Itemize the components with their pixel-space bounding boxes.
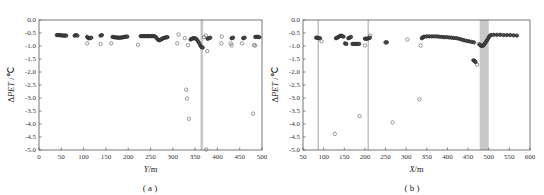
y-tick-label: -2.0	[289, 68, 301, 76]
data-point	[183, 37, 186, 40]
y-tick-label: -2.5	[25, 81, 37, 89]
data-point	[358, 115, 361, 118]
chart-canvas: 0.0-0.5-1.0-1.5-2.0-2.5-3.0-3.5-4.0-4.5-…	[0, 0, 544, 195]
data-point	[166, 35, 169, 38]
x-axis-label: Y/m	[144, 164, 158, 174]
data-point	[205, 50, 208, 53]
data-point	[495, 33, 498, 36]
data-point	[186, 44, 189, 47]
y-tick-label: -2.0	[25, 68, 37, 76]
y-tick-label: -0.5	[25, 29, 37, 37]
y-tick-label: -3.5	[25, 107, 37, 115]
x-tick-label: 400	[212, 153, 223, 161]
x-tick-label: 100	[78, 153, 89, 161]
data-point	[231, 36, 234, 39]
data-point	[230, 44, 233, 47]
x-tick-label: 500	[483, 153, 494, 161]
x-tick-label: 250	[145, 153, 156, 161]
data-point	[406, 38, 409, 41]
data-point	[472, 41, 475, 44]
data-point	[349, 35, 352, 38]
x-tick-label: 500	[257, 153, 268, 161]
highlight-band	[200, 20, 203, 150]
y-tick-label: -3.5	[289, 107, 301, 115]
data-point	[320, 40, 323, 43]
data-point	[184, 88, 187, 91]
data-point	[515, 34, 518, 37]
data-point	[176, 42, 179, 45]
data-point	[418, 98, 421, 101]
data-point	[357, 42, 360, 45]
y-tick-label: -1.0	[25, 42, 37, 50]
data-point	[110, 42, 113, 45]
x-tick-label: 450	[463, 153, 474, 161]
y-axis-label: ΔPET /℃	[270, 67, 280, 102]
y-tick-label: -3.0	[289, 94, 301, 102]
y-tick-label: -5.0	[25, 146, 37, 154]
data-point	[505, 33, 508, 36]
series-sparse-points	[320, 34, 481, 136]
data-point	[187, 117, 190, 120]
data-point	[220, 35, 223, 38]
x-tick-label: 550	[504, 153, 515, 161]
y-tick-label: -4.0	[25, 120, 37, 128]
x-tick-label: 300	[401, 153, 412, 161]
x-tick-label: 100	[318, 153, 329, 161]
y-tick-label: -0.5	[289, 29, 301, 37]
data-point	[475, 63, 478, 66]
chart-b: 0.0-0.5-1.0-1.5-2.0-2.5-3.0-3.5-4.0-4.5-…	[270, 16, 536, 193]
data-point	[345, 42, 348, 45]
y-tick-label: -2.5	[289, 81, 301, 89]
y-tick-label: 0.0	[27, 16, 36, 24]
x-tick-label: 450	[234, 153, 245, 161]
subfigure-caption: ( a )	[143, 183, 158, 193]
y-tick-label: -4.5	[25, 133, 37, 141]
y-tick-label: -3.0	[25, 94, 37, 102]
data-point	[342, 35, 345, 38]
data-point	[220, 42, 223, 45]
data-point	[177, 33, 180, 36]
data-point	[499, 33, 502, 36]
x-tick-label: 50	[58, 153, 66, 161]
data-point	[333, 132, 336, 135]
y-tick-label: -4.5	[289, 133, 301, 141]
data-point	[243, 36, 246, 39]
data-point	[363, 44, 366, 47]
y-tick-label: -1.5	[25, 55, 37, 63]
data-point	[512, 34, 515, 37]
x-tick-label: 150	[339, 153, 350, 161]
data-point	[508, 33, 511, 36]
x-tick-label: 200	[123, 153, 134, 161]
data-point	[229, 42, 232, 45]
data-point	[240, 42, 243, 45]
data-point	[99, 42, 102, 45]
data-point	[65, 34, 68, 37]
data-point	[205, 148, 208, 151]
y-tick-label: 0.0	[291, 16, 300, 24]
data-point	[85, 42, 88, 45]
x-tick-label: 50	[300, 153, 308, 161]
data-point	[100, 33, 103, 36]
y-axis-label: ΔPET /℃	[6, 67, 16, 102]
data-point	[201, 46, 204, 49]
data-point	[251, 112, 254, 115]
series-sparse-points	[85, 33, 257, 151]
data-point	[502, 33, 505, 36]
data-point	[76, 34, 79, 37]
x-tick-label: 150	[101, 153, 112, 161]
data-point	[391, 121, 394, 124]
series-dense-points	[55, 33, 261, 49]
x-tick-label: 0	[37, 153, 41, 161]
data-point	[126, 35, 129, 38]
y-tick-label: -1.0	[289, 42, 301, 50]
x-tick-label: 350	[422, 153, 433, 161]
x-tick-label: 400	[442, 153, 453, 161]
x-tick-label: 600	[525, 153, 536, 161]
chart-a: 0.0-0.5-1.0-1.5-2.0-2.5-3.0-3.5-4.0-4.5-…	[6, 16, 268, 193]
y-tick-label: -4.0	[289, 120, 301, 128]
y-tick-label: -1.5	[289, 55, 301, 63]
data-point	[419, 44, 422, 47]
x-tick-label: 300	[168, 153, 179, 161]
x-axis-label: X/m	[408, 164, 424, 174]
data-point	[492, 33, 495, 36]
